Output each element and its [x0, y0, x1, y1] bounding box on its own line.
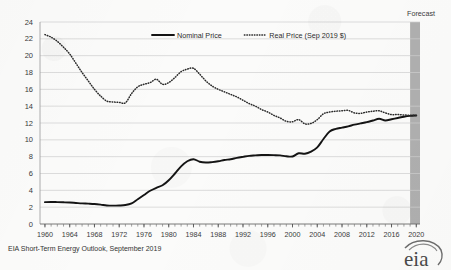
y-tick-label-22: 22 — [25, 34, 33, 43]
x-tick-label-1996: 1996 — [260, 230, 276, 239]
x-tick-label-1980: 1980 — [161, 230, 177, 239]
x-tick-label-2000: 2000 — [285, 230, 301, 239]
y-tick-label-6: 6 — [29, 169, 33, 178]
y-tick-label-4: 4 — [29, 186, 33, 195]
y-tick-label-10: 10 — [25, 135, 33, 144]
eia-price-chart-figure: 024681012141618202224 196019641968197219… — [0, 0, 451, 270]
y-tick-label-24: 24 — [25, 18, 33, 27]
y-tick-label-20: 20 — [25, 51, 33, 60]
x-tick-label-1960: 1960 — [37, 230, 53, 239]
y-tick-label-12: 12 — [25, 119, 33, 128]
logo-wordmark: eia — [404, 247, 429, 270]
chart-canvas: 024681012141618202224 196019641968197219… — [0, 0, 451, 270]
x-tick-label-1964: 1964 — [62, 230, 78, 239]
x-tick-label-1992: 1992 — [235, 230, 251, 239]
x-tick-label-1984: 1984 — [185, 230, 201, 239]
forecast-label: Forecast — [407, 9, 435, 18]
y-tick-label-8: 8 — [29, 152, 33, 161]
y-tick-label-2: 2 — [29, 203, 33, 212]
y-tick-label-18: 18 — [25, 68, 33, 77]
x-tick-label-2004: 2004 — [309, 230, 325, 239]
legend-label-nominal-price: Nominal Price — [177, 31, 222, 40]
x-tick-label-2012: 2012 — [359, 230, 375, 239]
x-tick-label-2020: 2020 — [408, 230, 424, 239]
x-tick-label-2008: 2008 — [334, 230, 350, 239]
x-tick-label-1968: 1968 — [86, 230, 102, 239]
x-tick-label-1976: 1976 — [136, 230, 152, 239]
legend-label-real-price: Real Price (Sep 2019 $) — [269, 31, 346, 40]
x-tick-label-1988: 1988 — [210, 230, 226, 239]
y-tick-label-14: 14 — [25, 102, 33, 111]
y-tick-label-0: 0 — [29, 220, 33, 229]
x-tick-label-2016: 2016 — [384, 230, 400, 239]
x-tick-label-1972: 1972 — [111, 230, 127, 239]
source-note: EIA Short-Term Energy Outlook, September… — [8, 245, 161, 253]
y-tick-label-16: 16 — [25, 85, 33, 94]
